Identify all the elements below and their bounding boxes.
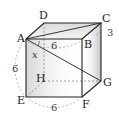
vertex-B: B: [84, 39, 92, 50]
dim-AE-label: 6: [12, 64, 18, 74]
vertex-E: E: [17, 95, 25, 106]
dim-C-label: 3: [107, 28, 113, 38]
vertex-G: G: [103, 77, 112, 88]
dim-EF-label: 6: [51, 103, 57, 113]
vertex-H: H: [36, 73, 46, 84]
vertex-A: A: [17, 33, 25, 44]
vertex-C: C: [102, 13, 110, 24]
dim-AB-label: 6: [51, 41, 57, 51]
vertex-D: D: [39, 10, 48, 21]
vertex-F: F: [82, 99, 90, 110]
angle-x-label: x: [32, 50, 38, 60]
